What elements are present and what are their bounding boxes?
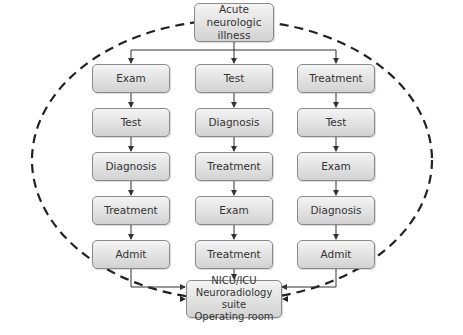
node-label: Test	[121, 116, 142, 129]
node-label-line: Neuroradiology suite	[187, 287, 281, 311]
col1-step2-test: Test	[92, 108, 170, 137]
col2-step4-exam: Exam	[195, 196, 273, 225]
node-label: Treatment	[207, 248, 260, 261]
node-label-line: NICU/ICU	[211, 275, 256, 287]
node-label: Treatment	[104, 204, 157, 217]
col3-step1-treatment: Treatment	[297, 64, 375, 93]
flow-diagram: Acute neurologic illness Exam Test Diagn…	[0, 0, 463, 335]
node-label-line: illness	[218, 29, 251, 42]
node-label: Exam	[116, 72, 146, 85]
col2-step1-test: Test	[195, 64, 273, 93]
col1-step3-diagnosis: Diagnosis	[92, 152, 170, 181]
col2-step2-diagnosis: Diagnosis	[195, 108, 273, 137]
col3-step5-admit: Admit	[297, 240, 375, 269]
node-label-line: Acute neurologic	[195, 3, 273, 29]
top-fanout-connectors	[131, 42, 336, 63]
node-label: Admit	[321, 248, 352, 261]
col2-step5-treatment: Treatment	[195, 240, 273, 269]
node-acute-neurologic-illness: Acute neurologic illness	[194, 3, 274, 42]
node-label: Exam	[321, 160, 351, 173]
node-label: Admit	[116, 248, 147, 261]
col1-step4-treatment: Treatment	[92, 196, 170, 225]
col1-step5-admit: Admit	[92, 240, 170, 269]
node-label: Test	[326, 116, 347, 129]
col3-step3-exam: Exam	[297, 152, 375, 181]
node-label: Treatment	[309, 72, 362, 85]
node-label: Diagnosis	[208, 116, 259, 129]
node-destination-units: NICU/ICU Neuroradiology suite Operating …	[186, 280, 282, 318]
col3-step4-diagnosis: Diagnosis	[297, 196, 375, 225]
node-label: Exam	[219, 204, 249, 217]
col3-step2-test: Test	[297, 108, 375, 137]
col1-step1-exam: Exam	[92, 64, 170, 93]
node-label: Diagnosis	[310, 204, 361, 217]
col2-step3-treatment: Treatment	[195, 152, 273, 181]
node-label-line: Operating room	[194, 311, 273, 323]
node-label: Test	[224, 72, 245, 85]
node-label: Treatment	[207, 160, 260, 173]
node-label: Diagnosis	[105, 160, 156, 173]
